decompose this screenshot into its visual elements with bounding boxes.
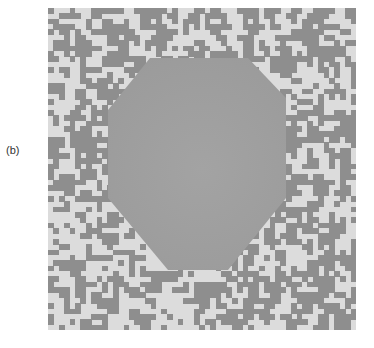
cell-grid-image	[48, 8, 356, 330]
panel-label: (b)	[6, 144, 19, 156]
